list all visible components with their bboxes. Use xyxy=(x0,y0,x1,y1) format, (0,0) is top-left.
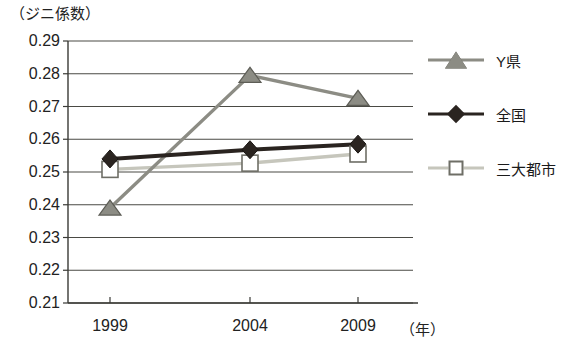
gini-coefficient-line-chart: （ジニ係数） 0.290.280.270.260.250.240.230.220… xyxy=(0,0,586,353)
x-tick-1999: 1999 xyxy=(92,317,128,335)
y-axis-caption: （ジニ係数） xyxy=(10,2,100,23)
y-tick-0.28: 0.28 xyxy=(2,65,60,83)
y-tick-0.24: 0.24 xyxy=(2,196,60,214)
legend-item-sandaitoshi: 三大都市 xyxy=(428,148,586,188)
x-tick-2004: 2004 xyxy=(232,317,268,335)
legend-item-y-ken: Y県 xyxy=(428,40,586,80)
legend-label-y-ken: Y県 xyxy=(496,50,521,71)
y-tick-0.27: 0.27 xyxy=(2,98,60,116)
y-tick-0.25: 0.25 xyxy=(2,163,60,181)
legend-swatch-y-ken xyxy=(428,49,484,71)
triangle-marker-icon xyxy=(445,52,467,69)
y-tick-0.26: 0.26 xyxy=(2,130,60,148)
y-tick-0.22: 0.22 xyxy=(2,261,60,279)
diamond-marker-icon xyxy=(447,105,465,123)
x-axis-unit-label: （年） xyxy=(400,318,445,339)
chart-legend: Y県 全国 三大都市 xyxy=(428,40,586,202)
square-marker-icon xyxy=(449,161,464,176)
legend-label-zenkoku: 全国 xyxy=(496,104,526,125)
legend-item-zenkoku: 全国 xyxy=(428,94,586,134)
y-tick-0.23: 0.23 xyxy=(2,229,60,247)
legend-label-sandaitoshi: 三大都市 xyxy=(496,158,556,179)
y-tick-0.29: 0.29 xyxy=(2,32,60,50)
legend-swatch-zenkoku xyxy=(428,103,484,125)
legend-swatch-sandaitoshi xyxy=(428,157,484,179)
y-tick-0.21: 0.21 xyxy=(2,294,60,312)
x-tick-2009: 2009 xyxy=(340,317,376,335)
